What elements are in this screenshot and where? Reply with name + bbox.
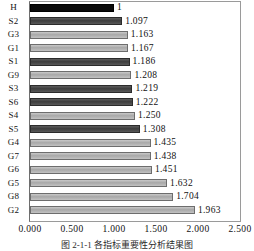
bar-row: G71.438 bbox=[0, 150, 254, 164]
bar-track: 1.308 bbox=[29, 123, 254, 137]
bar-row: S41.250 bbox=[0, 109, 254, 123]
category-label: G5 bbox=[0, 179, 29, 188]
bar bbox=[30, 193, 173, 201]
x-axis-tick-label: 2.000 bbox=[187, 223, 210, 235]
bar-track: 1.250 bbox=[29, 109, 254, 123]
bar bbox=[30, 44, 128, 52]
category-label: G8 bbox=[0, 192, 29, 201]
bar-value-label: 1.222 bbox=[136, 97, 159, 108]
category-label: G1 bbox=[0, 44, 29, 53]
bar bbox=[30, 4, 114, 12]
bar-rows: H1S21.097G31.163G11.167S11.186G91.208S31… bbox=[0, 1, 254, 222]
bar-value-label: 1.186 bbox=[133, 56, 156, 67]
bar-value-label: 1.208 bbox=[134, 70, 157, 81]
bar-track: 1.097 bbox=[29, 15, 254, 29]
figure-caption: 图 2-1-1 各指标重要性分析结果图 bbox=[0, 239, 254, 251]
bar bbox=[30, 112, 135, 120]
bar-chart: H1S21.097G31.163G11.167S11.186G91.208S31… bbox=[0, 0, 254, 251]
bar-value-label: 1.308 bbox=[143, 124, 166, 135]
bar-value-label: 1.451 bbox=[155, 164, 178, 175]
bar-track: 1.451 bbox=[29, 163, 254, 177]
bar-track: 1.704 bbox=[29, 190, 254, 204]
x-axis: 0.0000.5001.0001.5002.0002.500 bbox=[29, 223, 241, 237]
x-axis-tick-label: 0.500 bbox=[61, 223, 84, 235]
bar-track: 1.219 bbox=[29, 82, 254, 96]
category-label: G6 bbox=[0, 165, 29, 174]
bar-track: 1.222 bbox=[29, 96, 254, 110]
bar-track: 1.438 bbox=[29, 150, 254, 164]
bar-value-label: 1 bbox=[117, 2, 122, 13]
category-label: S4 bbox=[0, 111, 29, 120]
bar bbox=[30, 152, 151, 160]
category-label: S5 bbox=[0, 125, 29, 134]
bar-row: G61.451 bbox=[0, 163, 254, 177]
bar bbox=[30, 166, 152, 174]
x-axis-tick-label: 1.000 bbox=[103, 223, 126, 235]
category-label: S1 bbox=[0, 57, 29, 66]
bar bbox=[30, 98, 133, 106]
category-label: H bbox=[0, 3, 29, 12]
bar-value-label: 1.632 bbox=[170, 178, 193, 189]
category-label: S2 bbox=[0, 17, 29, 26]
bar-track: 1.435 bbox=[29, 136, 254, 150]
bar-row: G11.167 bbox=[0, 42, 254, 56]
category-label: S3 bbox=[0, 84, 29, 93]
x-axis-tick-label: 0.000 bbox=[19, 223, 42, 235]
bar-row: S61.222 bbox=[0, 96, 254, 110]
category-label: G3 bbox=[0, 30, 29, 39]
bar-track: 1.186 bbox=[29, 55, 254, 69]
category-label: G9 bbox=[0, 71, 29, 80]
bar bbox=[30, 206, 195, 214]
bar-row: S51.308 bbox=[0, 123, 254, 137]
category-label: G7 bbox=[0, 152, 29, 161]
bar-row: G51.632 bbox=[0, 177, 254, 191]
bar bbox=[30, 17, 122, 25]
bar bbox=[30, 58, 130, 66]
bar bbox=[30, 139, 151, 147]
bar-value-label: 1.438 bbox=[154, 151, 177, 162]
x-axis-tick-label: 1.500 bbox=[145, 223, 168, 235]
bar-row: G81.704 bbox=[0, 190, 254, 204]
bar-row: G31.163 bbox=[0, 28, 254, 42]
bar bbox=[30, 125, 140, 133]
bar-track: 1.632 bbox=[29, 177, 254, 191]
bar-track: 1.963 bbox=[29, 204, 254, 218]
bar-row: G21.963 bbox=[0, 204, 254, 218]
bar-row: S21.097 bbox=[0, 15, 254, 29]
bar-track: 1 bbox=[29, 1, 254, 15]
bar-row: S11.186 bbox=[0, 55, 254, 69]
bar-value-label: 1.435 bbox=[154, 137, 177, 148]
bar-row: G91.208 bbox=[0, 69, 254, 83]
bar-value-label: 1.963 bbox=[198, 205, 221, 216]
bar-value-label: 1.097 bbox=[125, 16, 148, 27]
bar-track: 1.208 bbox=[29, 69, 254, 83]
bar-row: S31.219 bbox=[0, 82, 254, 96]
bar-track: 1.167 bbox=[29, 42, 254, 56]
category-label: G2 bbox=[0, 206, 29, 215]
bar bbox=[30, 85, 132, 93]
bar bbox=[30, 31, 128, 39]
bar-value-label: 1.163 bbox=[131, 29, 154, 40]
bar bbox=[30, 179, 167, 187]
bar-track: 1.163 bbox=[29, 28, 254, 42]
category-label: S6 bbox=[0, 98, 29, 107]
bar-row: G41.435 bbox=[0, 136, 254, 150]
bar-row: H1 bbox=[0, 1, 254, 15]
bar-value-label: 1.219 bbox=[135, 83, 158, 94]
x-axis-tick-label: 2.500 bbox=[229, 223, 252, 235]
bar-value-label: 1.704 bbox=[176, 191, 199, 202]
category-label: G4 bbox=[0, 138, 29, 147]
bar bbox=[30, 71, 131, 79]
bar-value-label: 1.167 bbox=[131, 43, 154, 54]
bar-value-label: 1.250 bbox=[138, 110, 161, 121]
